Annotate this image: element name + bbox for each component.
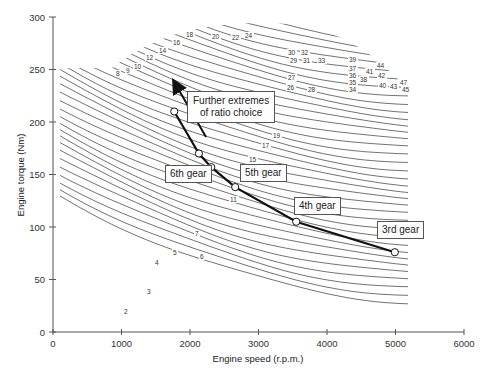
contour-label: 8 [116, 70, 120, 77]
contour-label: 36 [349, 72, 357, 79]
svg-text:6000: 6000 [453, 338, 474, 349]
y-axis-title: Engine torque (Nm) [15, 134, 26, 217]
contour-label: 35 [349, 79, 357, 86]
contour-label: 14 [159, 47, 167, 54]
contour-label: 22 [232, 34, 240, 41]
contour-label: 28 [308, 86, 316, 93]
contour-label: 11 [230, 196, 237, 203]
contour-label: 30 [288, 49, 296, 56]
operating-point-marker [293, 218, 300, 225]
svg-text:250: 250 [29, 64, 45, 75]
contour-label: 33 [318, 57, 326, 64]
annotation-further-extremes: Further extremes of ratio choice [187, 91, 275, 123]
label-4th-gear: 4th gear [294, 197, 341, 215]
contour-label: 45 [402, 86, 410, 93]
svg-text:5000: 5000 [385, 338, 406, 349]
contour-label: 19 [273, 132, 281, 139]
annotation-line-1: Further extremes [193, 95, 269, 107]
contour-label: 6 [200, 253, 204, 260]
contour-label: 27 [288, 74, 296, 81]
svg-text:50: 50 [34, 274, 45, 285]
contour-label: 4 [155, 259, 159, 266]
contour-label: 41 [366, 68, 374, 75]
label-6th-gear: 6th gear [165, 165, 212, 183]
x-axis-title: Engine speed (r.p.m.) [213, 353, 304, 364]
contour-label: 31 [303, 57, 311, 64]
contour-label: 17 [262, 142, 270, 149]
label-5th-gear: 5th gear [240, 164, 287, 182]
contour-label: 12 [146, 54, 154, 61]
contour-label: 10 [134, 63, 142, 70]
svg-text:200: 200 [29, 117, 45, 128]
contour-label: 26 [287, 84, 295, 91]
annotation-line-2: of ratio choice [193, 107, 269, 119]
svg-text:300: 300 [29, 12, 45, 23]
contour-label: 24 [245, 32, 253, 39]
operating-point-marker [171, 108, 178, 115]
contour-label: 20 [212, 33, 220, 40]
y-ticks: 050100150200250300 [29, 12, 56, 338]
contour-label: 9 [126, 67, 130, 74]
svg-text:150: 150 [29, 169, 45, 180]
svg-text:4000: 4000 [316, 338, 337, 349]
contour-label: 3 [147, 288, 151, 295]
contour-label: 42 [378, 72, 386, 79]
contour-label: 34 [349, 86, 357, 93]
contour-label: 18 [186, 31, 194, 38]
efficiency-contours [60, 0, 420, 304]
contour-label: 37 [349, 65, 357, 72]
contour-label: 29 [290, 57, 298, 64]
contour-label: 47 [400, 79, 408, 86]
label-3rd-gear: 3rd gear [377, 221, 424, 239]
svg-text:0: 0 [40, 327, 45, 338]
contour-label: 43 [390, 83, 398, 90]
svg-text:2000: 2000 [179, 338, 200, 349]
contour-label: 38 [360, 76, 368, 83]
svg-text:1000: 1000 [111, 338, 132, 349]
operating-point-marker [195, 150, 202, 157]
contour-label: 32 [301, 49, 309, 56]
contour-label: 16 [173, 39, 181, 46]
contour-label: 15 [249, 156, 257, 163]
svg-text:100: 100 [29, 222, 45, 233]
contour-label: 2 [124, 308, 128, 315]
contour-label: 39 [349, 56, 357, 63]
contour-label: 44 [377, 62, 385, 69]
svg-text:0: 0 [50, 338, 55, 349]
operating-point-marker [391, 249, 398, 256]
contour-chart: 2345678910121416182022241115171930322931… [0, 0, 486, 375]
contour-label: 40 [379, 82, 387, 89]
contour-label: 7 [195, 230, 199, 237]
operating-point-marker [232, 184, 239, 191]
contour-label: 5 [173, 249, 177, 256]
svg-text:3000: 3000 [248, 338, 269, 349]
